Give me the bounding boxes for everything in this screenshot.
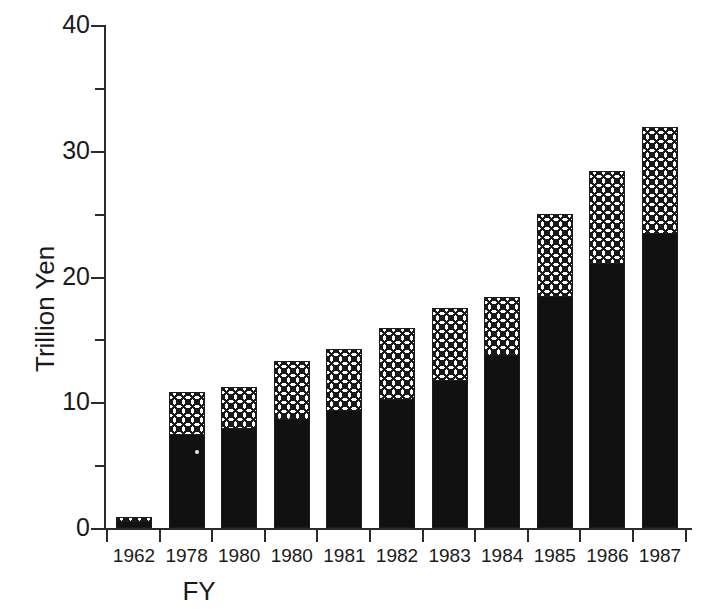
x-tick-label-8: 1985 [525,546,585,566]
y-tick-label-30: 30 [20,138,90,163]
y-tick-5 [95,465,104,467]
bar-segment-upper-hatched [326,349,362,411]
x-tick-4 [316,530,318,542]
x-tick-label-5: 1982 [367,546,427,566]
bar-segment-upper-hatched [484,297,520,356]
bar-segment-lower-solid [589,264,625,528]
y-tick-label-0: 0 [20,515,90,540]
bar-segment-lower-solid [432,381,468,528]
bar-1985-8 [537,214,573,528]
x-tick-9 [579,530,581,542]
bar-segment-lower-solid [116,522,152,528]
bar-segment-lower-solid [484,356,520,528]
bar-segment-lower-solid [379,400,415,528]
bar-1983-6 [432,308,468,528]
x-tick-10 [632,530,634,542]
bar-1978-1 [169,392,205,528]
x-tick-5 [369,530,371,542]
x-axis-spine [104,528,692,530]
y-tick-label-40: 40 [20,12,90,37]
y-axis-spine [104,25,106,530]
bar-segment-lower-solid [274,420,310,528]
scan-artifact-dot [195,450,199,454]
x-tick-8 [527,530,529,542]
x-tick-label-6: 1983 [420,546,480,566]
x-tick-3 [264,530,266,542]
y-tick-25 [95,214,104,216]
x-tick-label-10: 1987 [630,546,690,566]
bar-segment-upper-hatched [537,214,573,297]
x-tick-label-3: 1980 [262,546,322,566]
bar-segment-upper-hatched [589,171,625,264]
bar-segment-upper-hatched [221,387,257,428]
bar-1980-2 [221,387,257,528]
y-tick-15 [95,339,104,341]
x-tick-label-7: 1984 [472,546,532,566]
bar-segment-upper-hatched [379,328,415,400]
bar-1962-0 [116,517,152,528]
bar-1984-7 [484,297,520,528]
bar-segment-upper-hatched [432,308,468,381]
y-tick-40 [91,25,104,27]
x-tick-label-4: 1981 [314,546,374,566]
x-tick-11 [685,530,687,542]
y-tick-0 [91,528,104,530]
y-tick-30 [91,151,104,153]
bar-1986-9 [589,171,625,528]
x-tick-7 [474,530,476,542]
bar-1980-3 [274,361,310,528]
bar-1981-4 [326,349,362,528]
bar-segment-lower-solid [169,435,205,528]
x-tick-0 [106,530,108,542]
y-tick-label-10: 10 [20,389,90,414]
y-tick-label-20: 20 [20,264,90,289]
bar-1987-10 [642,127,678,528]
x-tick-2 [211,530,213,542]
x-tick-label-0: 1962 [104,546,164,566]
x-tick-label-2: 1980 [209,546,269,566]
x-tick-label-9: 1986 [577,546,637,566]
bar-chart: Trillion Yen 0 10 20 30 40 1962197819801… [0,0,704,609]
bar-segment-upper-hatched [274,361,310,420]
y-tick-20 [91,277,104,279]
bar-segment-lower-solid [642,234,678,528]
x-tick-6 [422,530,424,542]
x-tick-1 [159,530,161,542]
x-axis-label: FY [0,576,398,607]
bar-segment-upper-hatched [642,127,678,234]
bar-segment-upper-hatched [169,392,205,435]
bar-segment-lower-solid [537,297,573,528]
bar-segment-lower-solid [221,429,257,528]
x-tick-label-1: 1978 [157,546,217,566]
bar-1982-5 [379,328,415,528]
y-tick-10 [91,402,104,404]
bar-segment-lower-solid [326,411,362,528]
y-tick-35 [95,88,104,90]
